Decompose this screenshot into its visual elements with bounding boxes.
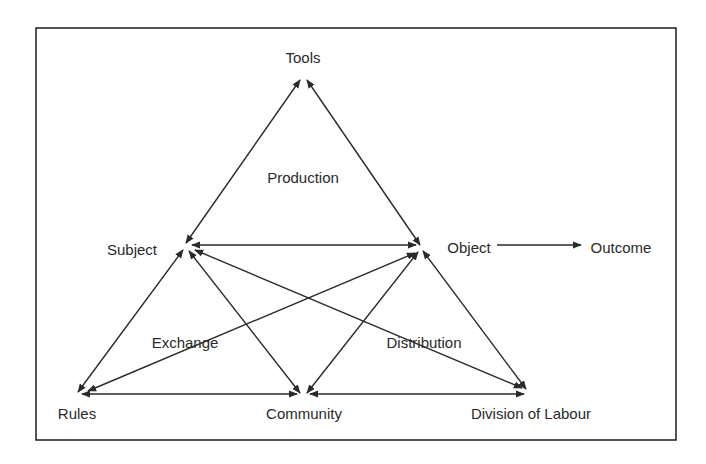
node-label-subject: Subject: [107, 241, 158, 258]
region-label-exchange: Exchange: [152, 334, 219, 351]
node-label-outcome: Outcome: [591, 239, 652, 256]
node-label-division: Division of Labour: [471, 405, 591, 422]
edge-tools-object-arrow: [307, 80, 420, 245]
node-label-object: Object: [447, 239, 491, 256]
edge-subject-rules-arrow: [78, 250, 183, 392]
region-label-distribution: Distribution: [386, 334, 461, 351]
activity-system-diagram: ProductionExchangeDistribution ToolsSubj…: [0, 0, 706, 464]
region-label-production: Production: [267, 169, 339, 186]
node-label-rules: Rules: [58, 405, 96, 422]
edge-object-community-arrow: [307, 252, 418, 393]
diagram-frame: [36, 28, 676, 440]
edge-subject-tools-arrow: [186, 80, 300, 243]
node-label-tools: Tools: [285, 49, 320, 66]
node-label-community: Community: [266, 405, 342, 422]
edge-subject-community-arrow: [189, 251, 300, 393]
regions-group: ProductionExchangeDistribution: [152, 169, 462, 351]
